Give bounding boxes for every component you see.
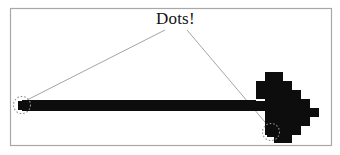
lower-arrowhead-dot bbox=[267, 128, 276, 137]
figure-container: Dots! bbox=[0, 0, 340, 155]
arrowhead-row-4 bbox=[265, 99, 310, 109]
arrowhead-notch-left bbox=[256, 99, 265, 101]
left-shaft-end-dot bbox=[18, 101, 27, 110]
arrowhead-row-2 bbox=[256, 81, 292, 90]
arrowhead-row-1 bbox=[265, 72, 283, 81]
dots-annotation-label: Dots! bbox=[156, 9, 195, 28]
arrowhead-notch-upper bbox=[256, 72, 265, 81]
arrowhead-row-3 bbox=[256, 90, 301, 100]
arrow-shaft bbox=[22, 100, 272, 111]
arrowhead-row-6 bbox=[265, 117, 310, 126]
arrowhead-row-5 bbox=[265, 108, 319, 117]
